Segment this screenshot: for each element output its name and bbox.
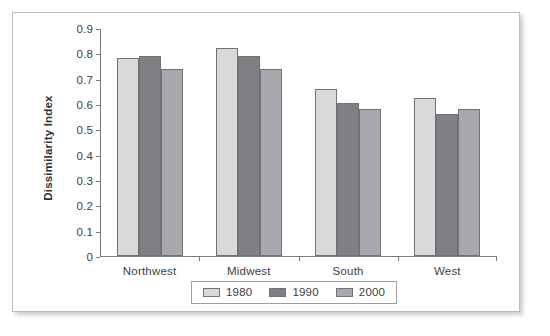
bar xyxy=(238,56,260,256)
bar xyxy=(139,56,161,256)
y-axis-tick xyxy=(96,80,100,81)
x-axis-tick xyxy=(299,257,300,261)
y-axis-tick xyxy=(96,105,100,106)
x-axis-category-label: West xyxy=(434,265,461,277)
bar-group xyxy=(414,28,480,256)
y-axis-tick xyxy=(96,130,100,131)
y-axis-tick-label: 0 xyxy=(86,251,93,263)
bar-group xyxy=(315,28,381,256)
legend-label: 1990 xyxy=(292,286,318,298)
bar xyxy=(260,69,282,256)
bar xyxy=(117,58,139,256)
y-axis-tick xyxy=(96,29,100,30)
bar xyxy=(414,98,436,256)
y-axis-tick-label: 0.2 xyxy=(76,200,93,212)
legend-item: 1990 xyxy=(269,286,318,298)
y-axis-tick xyxy=(96,156,100,157)
x-axis-tick xyxy=(199,257,200,261)
legend-swatch xyxy=(269,288,286,297)
y-axis-tick-label: 0.7 xyxy=(76,74,93,86)
bar-group xyxy=(216,28,282,256)
bar xyxy=(436,114,458,256)
y-axis-tick-label: 0.9 xyxy=(76,23,93,35)
chart-card: Dissimilarity Index 00.10.20.30.40.50.60… xyxy=(12,12,520,312)
y-axis-title-label: Dissimilarity Index xyxy=(42,95,54,200)
plot-area: 00.10.20.30.40.50.60.70.80.9 NorthwestMi… xyxy=(100,29,497,272)
y-axis-tick-label: 0.1 xyxy=(76,226,93,238)
bar xyxy=(161,69,183,256)
bar xyxy=(458,109,480,256)
x-axis-tick xyxy=(398,257,399,261)
y-axis-tick-label: 0.4 xyxy=(76,150,93,162)
x-axis-tick xyxy=(496,257,497,261)
bar xyxy=(337,103,359,256)
y-axis-tick-label: 0.5 xyxy=(76,124,93,136)
y-axis-tick xyxy=(96,206,100,207)
x-axis-category-label: South xyxy=(333,265,364,277)
y-axis-tick xyxy=(96,232,100,233)
y-axis-title: Dissimilarity Index xyxy=(39,63,57,233)
y-axis-tick xyxy=(96,181,100,182)
bar xyxy=(216,48,238,256)
legend-label: 2000 xyxy=(359,286,385,298)
y-axis-tick-label: 0.3 xyxy=(76,175,93,187)
y-axis-tick xyxy=(96,257,100,258)
screenshot-root: Dissimilarity Index 00.10.20.30.40.50.60… xyxy=(0,0,550,336)
legend-item: 2000 xyxy=(336,286,385,298)
legend-item: 1980 xyxy=(203,286,252,298)
bar-group xyxy=(117,28,183,256)
y-axis-tick-label: 0.8 xyxy=(76,48,93,60)
chart-legend: 198019902000 xyxy=(191,281,397,304)
legend-swatch xyxy=(203,288,220,297)
bar xyxy=(315,89,337,256)
y-axis-tick xyxy=(96,54,100,55)
y-axis-line xyxy=(100,29,101,257)
legend-label: 1980 xyxy=(226,286,252,298)
y-axis-tick-label: 0.6 xyxy=(76,99,93,111)
x-axis-category-label: Northwest xyxy=(123,265,177,277)
bar xyxy=(359,109,381,256)
x-axis-category-label: Midwest xyxy=(227,265,271,277)
legend-swatch xyxy=(336,288,353,297)
